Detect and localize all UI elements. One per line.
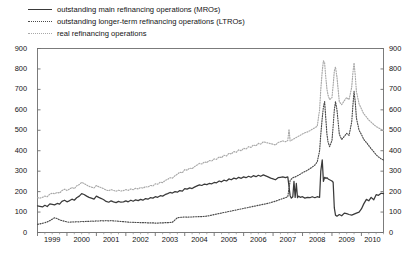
y-axis-left-tick-700: 700 xyxy=(3,85,27,93)
y-axis-left-tick-200: 200 xyxy=(3,188,27,196)
y-axis-right-tick-200: 200 xyxy=(389,188,413,196)
y-axis-left-tick-600: 600 xyxy=(3,106,27,114)
y-axis-left-tick-0: 0 xyxy=(3,229,27,237)
y-axis-left-tick-500: 500 xyxy=(3,126,27,134)
y-axis-left-tick-300: 300 xyxy=(3,167,27,175)
y-axis-right-tick-0: 0 xyxy=(389,229,413,237)
y-axis-left-tick-900: 900 xyxy=(3,45,27,53)
y-axis-right-tick-300: 300 xyxy=(389,167,413,175)
chart-plot-area xyxy=(0,0,418,258)
y-axis-right-tick-900: 900 xyxy=(389,45,413,53)
data-series-group xyxy=(38,61,384,225)
chart-screenshot: outstanding main refinancing operations … xyxy=(0,0,418,258)
series-line-2 xyxy=(38,61,384,198)
y-axis-left-tick-400: 400 xyxy=(3,147,27,155)
x-axis-tick-2010: 2010 xyxy=(355,236,389,244)
series-line-1 xyxy=(38,91,384,224)
y-axis-right-tick-100: 100 xyxy=(389,208,413,216)
y-axis-left-tick-800: 800 xyxy=(3,65,27,73)
y-axis-right-tick-600: 600 xyxy=(389,106,413,114)
y-axis-right-tick-800: 800 xyxy=(389,65,413,73)
y-axis-right-tick-700: 700 xyxy=(389,85,413,93)
series-line-0 xyxy=(38,160,384,216)
y-axis-right-tick-500: 500 xyxy=(389,126,413,134)
y-axis-left-tick-100: 100 xyxy=(3,208,27,216)
y-axis-right-tick-400: 400 xyxy=(389,147,413,155)
